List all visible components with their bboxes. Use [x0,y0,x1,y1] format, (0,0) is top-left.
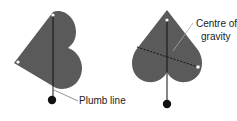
left-heart-shape [14,11,82,89]
right-pin-top [165,18,168,21]
centre-of-gravity-label-line1: Centre of [196,18,237,29]
left-plumb-bob [48,96,56,104]
left-suspended-shape: Plumb line [14,11,126,106]
right-pin-side [196,65,200,69]
plumb-line-label: Plumb line [79,95,126,106]
left-pin-side [16,60,19,63]
left-pin-top [51,13,54,16]
centre-of-gravity-diagram: Plumb line Centre of gravity [0,0,237,121]
plumb-line-leader [54,90,78,101]
right-plumb-bob [163,100,171,108]
centre-of-gravity-label-line2: gravity [201,31,230,42]
right-suspended-shape: Centre of gravity [132,10,237,108]
